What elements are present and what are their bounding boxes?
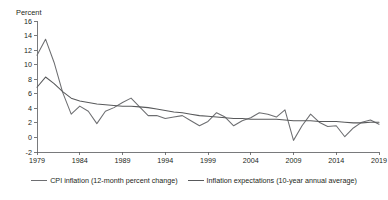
y-tick-label: 0 <box>28 133 32 142</box>
y-tick-label: 16 <box>24 17 32 26</box>
y-axis-tick-labels: -20246810121416 <box>24 17 32 157</box>
legend-item-inflation-expectations: Inflation expectations (10-year annual a… <box>188 176 357 185</box>
legend-label-cpi-inflation: CPI inflation (12-month percent change) <box>50 176 177 185</box>
legend-label-inflation-expectations: Inflation expectations (10-year annual a… <box>207 176 357 185</box>
y-tick-label: 2 <box>28 118 32 127</box>
y-tick-label: 10 <box>24 60 32 69</box>
x-tick-label: 1994 <box>157 156 173 165</box>
series-lines <box>37 39 379 140</box>
x-tick-label: 2014 <box>328 156 344 165</box>
legend-item-cpi-inflation: CPI inflation (12-month percent change) <box>31 176 177 185</box>
x-tick-label: 1984 <box>72 156 88 165</box>
legend-swatch-cpi-inflation <box>31 180 47 181</box>
series-line-cpi-inflation <box>37 39 379 140</box>
y-tick-label: 14 <box>24 31 32 40</box>
chart-legend: CPI inflation (12-month percent change) … <box>0 176 388 185</box>
y-tick-label: 8 <box>28 75 32 84</box>
y-axis-unit-label: Percent <box>16 8 41 17</box>
x-tick-label: 2004 <box>243 156 259 165</box>
x-axis-tick-labels: 197919841989199419992004200920142019 <box>29 156 387 165</box>
y-tick-label: 4 <box>28 104 32 113</box>
x-tick-label: 1989 <box>115 156 131 165</box>
inflation-line-chart: -20246810121416 197919841989199419992004… <box>0 0 388 200</box>
x-tick-label: 2009 <box>286 156 302 165</box>
x-tick-label: 2019 <box>371 156 387 165</box>
legend-swatch-inflation-expectations <box>188 180 204 181</box>
y-tick-label: 12 <box>24 46 32 55</box>
chart-figure: -20246810121416 197919841989199419992004… <box>0 0 388 200</box>
y-tick-label: 6 <box>28 89 32 98</box>
x-tick-label: 1979 <box>29 156 45 165</box>
series-line-inflation-expectations <box>37 77 379 123</box>
x-tick-label: 1999 <box>200 156 216 165</box>
